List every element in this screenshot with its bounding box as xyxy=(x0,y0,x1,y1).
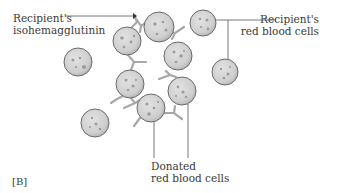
label-line: isohemagglutinin xyxy=(13,24,105,36)
label-line: red blood cells xyxy=(241,25,319,37)
panel-label: [B] xyxy=(12,176,27,188)
donated-rbc-a xyxy=(113,27,141,55)
label-line: red blood cells xyxy=(151,172,229,184)
label-line: Recipient's xyxy=(13,12,105,24)
recipient-rbc-left xyxy=(64,48,92,76)
donated-rbc-b xyxy=(144,12,174,42)
recipient-rbc-top-right xyxy=(190,10,216,36)
label-donated-red-blood-cells: Donated red blood cells xyxy=(151,160,229,184)
donated-rbc-d xyxy=(164,42,192,70)
donated-rbc-c xyxy=(116,70,144,98)
label-line: Recipient's xyxy=(241,13,319,25)
label-recipient-isohemagglutinin: Recipient's isohemagglutinin xyxy=(13,12,105,36)
donated-rbc-e xyxy=(137,94,165,122)
label-recipient-red-blood-cells: Recipient's red blood cells xyxy=(241,13,319,37)
recipient-rbc-right xyxy=(212,59,238,85)
label-line: Donated xyxy=(151,160,229,172)
